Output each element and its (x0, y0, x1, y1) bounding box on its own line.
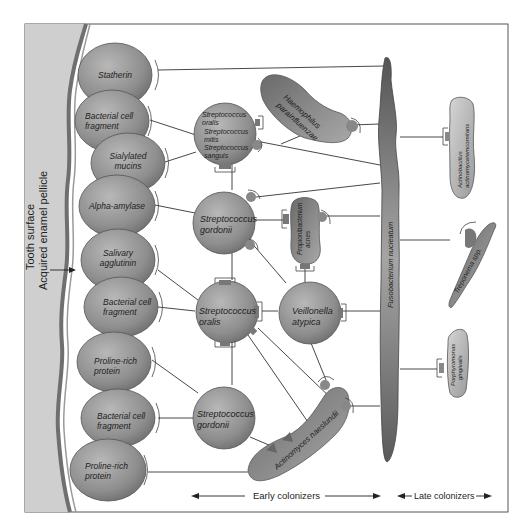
svg-text:Propionibacterium: Propionibacterium (296, 202, 304, 255)
svg-text:Bacterial cell: Bacterial cell (85, 111, 134, 121)
svg-text:mitis: mitis (204, 136, 219, 143)
svg-text:gordonii: gordonii (197, 420, 230, 430)
oral-biofilm-diagram: Tooth surface Acquired enamel pellicle (0, 0, 517, 530)
svg-text:Bacterial cell: Bacterial cell (97, 411, 146, 421)
svg-text:Streptococcus: Streptococcus (204, 128, 249, 136)
svg-text:Proline-rich: Proline-rich (94, 356, 137, 366)
svg-text:Fusobacterium nucleatum: Fusobacterium nucleatum (386, 222, 395, 308)
svg-text:Streptococcus: Streptococcus (199, 306, 257, 316)
svg-text:actinomycetemcomitans: actinomycetemcomitans (464, 124, 470, 188)
svg-text:fragment: fragment (97, 421, 131, 431)
svg-text:gordonii: gordonii (200, 225, 233, 235)
strep-gordonii-bottom: Streptococcus gordonii (193, 387, 255, 449)
svg-text:Bacterial cell: Bacterial cell (103, 297, 152, 307)
pellicle-label: Acquired enamel pellicle (37, 171, 49, 290)
svg-text:Sialylated: Sialylated (110, 151, 147, 161)
svg-text:protein: protein (93, 366, 120, 376)
svg-text:Actinobacillus: Actinobacillus (457, 151, 463, 189)
svg-text:Streptococcus: Streptococcus (197, 409, 255, 419)
svg-text:gingivalis: gingivalis (457, 355, 463, 380)
svg-text:atypica: atypica (292, 317, 321, 327)
svg-text:oralis: oralis (202, 119, 219, 126)
svg-text:Early colonizers: Early colonizers (253, 490, 320, 501)
svg-text:Alpha-amylase: Alpha-amylase (88, 201, 145, 211)
svg-text:Porphyromonas: Porphyromonas (450, 344, 456, 386)
svg-text:protein: protein (84, 471, 111, 481)
fusobacterium-nucleatum: Fusobacterium nucleatum (378, 57, 399, 462)
svg-text:Streptococcus: Streptococcus (200, 214, 258, 224)
svg-text:fragment: fragment (85, 121, 119, 131)
svg-text:sanguis: sanguis (204, 152, 229, 160)
svg-text:fragment: fragment (103, 307, 137, 317)
svg-text:Late colonizers: Late colonizers (414, 491, 475, 501)
svg-text:Statherin: Statherin (98, 70, 132, 80)
svg-text:acnes: acnes (304, 230, 311, 248)
svg-text:Proline-rich: Proline-rich (85, 461, 128, 471)
svg-text:Streptococcus: Streptococcus (202, 111, 247, 119)
svg-text:Salivary: Salivary (103, 248, 134, 258)
svg-text:mucins: mucins (115, 161, 143, 171)
svg-text:oralis: oralis (199, 317, 221, 327)
svg-text:Streptococcus: Streptococcus (204, 144, 249, 152)
svg-text:agglutinin: agglutinin (100, 258, 137, 268)
svg-text:Veillonella: Veillonella (292, 306, 333, 316)
tooth-surface-label: Tooth surface (24, 204, 36, 270)
